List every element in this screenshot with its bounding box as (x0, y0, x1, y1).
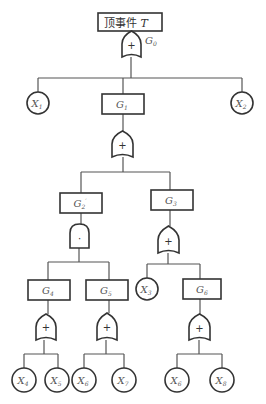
top-event-box[interactable]: 顶事件 T (98, 13, 162, 31)
basic-event-x3[interactable]: X3 (136, 278, 158, 300)
or-symbol: + (42, 322, 50, 333)
basic-event-x7[interactable]: X7 (112, 368, 136, 392)
basic-event-x2[interactable]: X2 (231, 92, 253, 114)
basic-event-x6-right[interactable]: X6 (165, 368, 189, 392)
gate-label-g0: G0 (145, 35, 157, 47)
or-gate-g1[interactable]: + (112, 131, 133, 157)
or-symbol: + (195, 323, 203, 334)
or-gate-g4[interactable]: + (36, 314, 56, 340)
intermediate-event-g1[interactable]: G1 (102, 94, 144, 114)
basic-event-x5[interactable]: X5 (45, 368, 69, 392)
basic-event-x8[interactable]: X8 (210, 368, 234, 392)
or-symbol: + (164, 236, 172, 247)
top-event-label: 顶事件 T (104, 16, 150, 29)
or-gate-g5[interactable]: + (97, 313, 117, 340)
or-gate-g6[interactable]: + (189, 314, 210, 340)
basic-event-x6-left[interactable]: X6 (72, 368, 96, 392)
fault-tree-diagram: 顶事件 T + G0 X1 G1 X2 + G2′ G3 · + (0, 0, 266, 404)
or-symbol: + (118, 140, 126, 151)
or-symbol: + (103, 322, 111, 333)
basic-event-x1[interactable]: X1 (27, 92, 49, 114)
intermediate-event-g4[interactable]: G4 (28, 280, 70, 300)
and-symbol: · (78, 233, 81, 244)
intermediate-event-g5[interactable]: G5 (86, 280, 128, 300)
or-gate-g0[interactable]: + (122, 31, 141, 57)
intermediate-event-g3[interactable]: G3 (151, 190, 193, 210)
intermediate-event-g6[interactable]: G6 (183, 279, 221, 299)
basic-event-x4[interactable]: X4 (12, 368, 36, 392)
or-symbol: + (127, 40, 135, 51)
svg-text:G2′: G2′ (73, 197, 87, 210)
or-gate-g3[interactable]: + (158, 226, 179, 253)
and-gate-g2[interactable]: · (70, 224, 89, 248)
intermediate-event-g2[interactable]: G2′ (60, 193, 102, 213)
